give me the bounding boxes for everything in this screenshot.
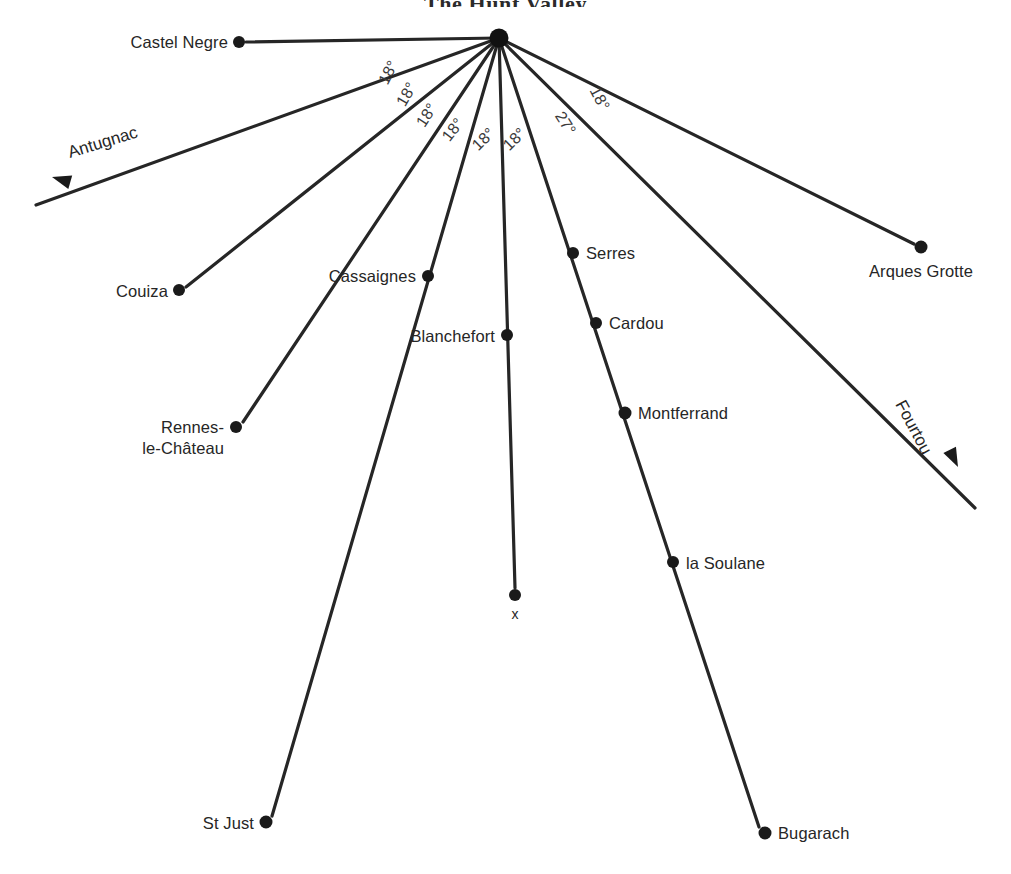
site-dot-cassaignes[interactable] <box>422 270 434 282</box>
hub-dot[interactable] <box>490 29 509 48</box>
site-dot-x-point[interactable] <box>509 589 521 601</box>
arrow-head-antugnac <box>50 170 72 189</box>
site-dot-cardou[interactable] <box>590 317 602 329</box>
site-dot-arques-grotte[interactable] <box>915 241 928 254</box>
site-labels-group: Castel NegreCouizaCassaignesRennes-le-Ch… <box>116 33 973 842</box>
site-label-couiza: Couiza <box>116 282 169 300</box>
site-label-cardou: Cardou <box>609 314 664 332</box>
site-dot-montferrand[interactable] <box>619 407 632 420</box>
angle-label-angle-8: 18° <box>587 84 613 113</box>
direction-label-antugnac: Antugnac <box>66 123 141 162</box>
angle-label-angle-6: 18° <box>500 125 529 154</box>
ray-couiza <box>186 38 499 287</box>
site-dots-group <box>173 29 928 840</box>
angle-labels-group: 18°18°18°18°18°18°27°18° <box>375 58 613 154</box>
site-label-serres: Serres <box>586 244 635 262</box>
ray-rennes <box>243 38 499 422</box>
site-label-cassaignes: Cassaignes <box>329 267 416 285</box>
site-dot-bugarach[interactable] <box>759 827 772 840</box>
site-dot-castel-negre[interactable] <box>233 36 245 48</box>
alignment-diagram: Castel NegreCouizaCassaignesRennes-le-Ch… <box>0 0 1011 874</box>
ray-bugarach <box>499 38 759 827</box>
angle-label-angle-4: 18° <box>439 115 467 145</box>
site-label-x-point: x <box>511 606 518 622</box>
site-label-arques-grotte: Arques Grotte <box>869 262 973 280</box>
direction-labels-group: AntugnacFourtou <box>66 123 936 458</box>
site-label-rennes-le-chateau: Rennes-le-Château <box>142 418 224 457</box>
site-dot-rennes-le-chateau[interactable] <box>230 421 242 433</box>
ray-arques <box>499 38 914 244</box>
ray-castel-negre <box>246 38 499 42</box>
site-label-castel-negre: Castel Negre <box>131 33 229 51</box>
site-dot-st-just[interactable] <box>260 816 273 829</box>
site-dot-la-soulane[interactable] <box>667 556 679 568</box>
ray-diagram-canvas: The Hunt Valley Castel NegreCouizaCassai… <box>0 0 1011 874</box>
site-label-la-soulane: la Soulane <box>686 554 765 572</box>
ray-x <box>499 38 515 588</box>
site-dot-couiza[interactable] <box>173 284 185 296</box>
site-dot-blanchefort[interactable] <box>501 329 513 341</box>
site-label-st-just: St Just <box>203 814 254 832</box>
site-label-blanchefort: Blanchefort <box>410 327 495 345</box>
ray-st-just <box>272 38 499 816</box>
site-dot-serres[interactable] <box>567 247 579 259</box>
site-label-bugarach: Bugarach <box>778 824 849 842</box>
site-label-montferrand: Montferrand <box>638 404 728 422</box>
arrow-head-fourtou <box>943 447 964 470</box>
